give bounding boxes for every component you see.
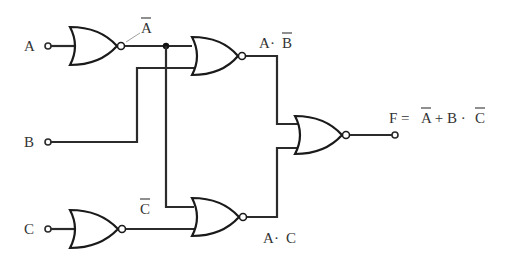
svg-text:C: C (286, 230, 296, 246)
svg-text:C: C (475, 110, 485, 126)
nor-gate-2 (192, 37, 246, 75)
svg-text:B: B (282, 35, 292, 51)
wire-gate3-to-gate4 (247, 148, 298, 217)
nor-gate-1 (70, 27, 125, 65)
input-label-a: A (24, 38, 35, 54)
input-terminal-a (45, 43, 51, 49)
wire-not-a-to-gate3 (166, 46, 194, 207)
input-terminal-c (45, 226, 51, 232)
svg-text:A: A (259, 35, 270, 51)
inversion-bubble-icon (118, 43, 125, 50)
svg-text:A: A (141, 20, 152, 36)
svg-text:C: C (140, 201, 150, 217)
nor-gate-5 (70, 210, 126, 248)
label-a-and-c: A · C (263, 230, 296, 246)
svg-text:A: A (263, 230, 274, 246)
input-terminal-b (45, 139, 51, 145)
wire-gate2-to-gate4 (246, 56, 298, 124)
label-leader-line (126, 33, 140, 42)
svg-text:·: · (274, 230, 279, 246)
svg-text:·: · (270, 35, 275, 51)
nor-gate-3 (192, 198, 247, 236)
output-terminal-f (392, 132, 398, 138)
wire-b-to-gate2 (51, 68, 194, 142)
output-expression: F = A + B · C (389, 108, 485, 126)
nor-gate-4 (295, 116, 350, 154)
label-not-a: A (141, 18, 152, 36)
inversion-bubble-icon (240, 214, 247, 221)
label-a-and-not-b: A · B (259, 33, 292, 51)
inversion-bubble-icon (119, 226, 126, 233)
svg-text:F =: F = (389, 110, 410, 126)
input-label-c: C (24, 221, 34, 237)
inversion-bubble-icon (239, 53, 246, 60)
input-label-b: B (24, 134, 34, 150)
label-not-c: C (140, 199, 150, 217)
inversion-bubble-icon (343, 132, 350, 139)
logic-circuit-diagram: A A B A · B C C (0, 0, 512, 272)
svg-text:+ B ·: + B · (431, 110, 469, 126)
